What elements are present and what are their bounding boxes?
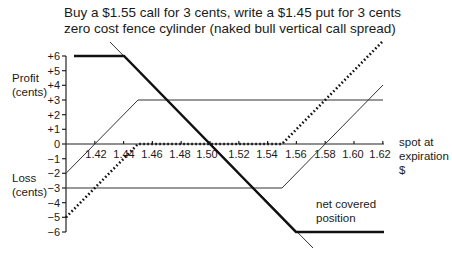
svg-text:+5: +5 bbox=[47, 65, 60, 77]
ylabel-profit-2: (cents) bbox=[12, 86, 47, 98]
svg-text:1.44: 1.44 bbox=[113, 148, 134, 160]
x-axis bbox=[66, 141, 384, 144]
y-tick-labels: +6 +5 +4 +3 +2 +1 0 −1 −2 −3 −4 −5 −6 bbox=[47, 50, 60, 238]
svg-text:1.56: 1.56 bbox=[285, 148, 306, 160]
payoff-chart: Buy a $1.55 call for 3 cents, write a $1… bbox=[0, 0, 452, 261]
svg-text:1.62: 1.62 bbox=[369, 148, 390, 160]
ylabel-loss-1: Loss bbox=[12, 172, 37, 184]
svg-text:+4: +4 bbox=[47, 79, 60, 91]
annotation-net-covered-1: net covered bbox=[316, 198, 376, 210]
svg-text:1.46: 1.46 bbox=[141, 148, 162, 160]
ylabel-loss-2: (cents) bbox=[12, 186, 47, 198]
svg-text:1.54: 1.54 bbox=[256, 148, 277, 160]
svg-text:1.60: 1.60 bbox=[342, 148, 363, 160]
svg-text:−6: −6 bbox=[47, 226, 60, 238]
series-cylinder-dotted bbox=[66, 41, 383, 217]
series-written-put bbox=[66, 100, 383, 173]
svg-text:1.58: 1.58 bbox=[314, 148, 335, 160]
svg-text:−4: −4 bbox=[47, 197, 60, 209]
svg-text:0: 0 bbox=[54, 138, 60, 150]
svg-text:−3: −3 bbox=[47, 182, 60, 194]
svg-text:+1: +1 bbox=[47, 123, 60, 135]
chart-title-line1: Buy a $1.55 call for 3 cents, write a $1… bbox=[64, 5, 401, 20]
xlabel-2: expiration bbox=[399, 150, 449, 162]
svg-text:−1: −1 bbox=[47, 153, 60, 165]
svg-text:−2: −2 bbox=[47, 167, 60, 179]
x-tick-labels: 1.42 1.44 1.46 1.48 1.50 1.52 1.54 1.56 … bbox=[85, 148, 390, 160]
chart-title-line2: zero cost fence cylinder (naked bull ver… bbox=[64, 21, 396, 36]
annotation-net-covered-2: position bbox=[316, 212, 356, 224]
ylabel-profit-1: Profit bbox=[12, 72, 40, 84]
svg-text:+2: +2 bbox=[47, 109, 60, 121]
xlabel-3: $ bbox=[399, 164, 406, 176]
svg-text:+6: +6 bbox=[47, 50, 60, 62]
svg-text:+3: +3 bbox=[47, 94, 60, 106]
svg-text:1.48: 1.48 bbox=[169, 148, 190, 160]
y-axis bbox=[62, 56, 66, 232]
xlabel-1: spot at bbox=[399, 136, 434, 148]
svg-text:−5: −5 bbox=[47, 211, 60, 223]
svg-text:1.52: 1.52 bbox=[228, 148, 249, 160]
